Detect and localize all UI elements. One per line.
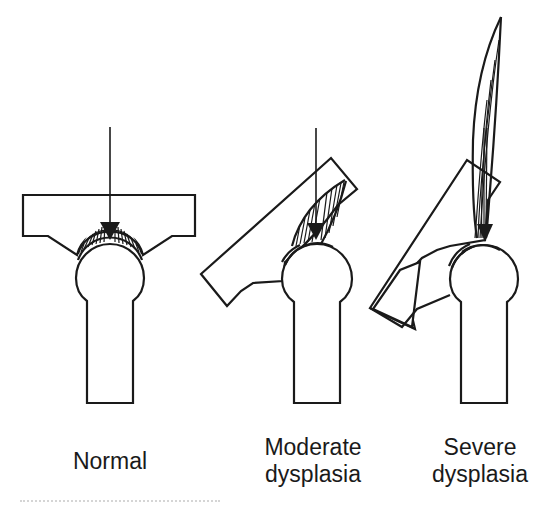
panel-moderate xyxy=(201,128,357,403)
label-moderate-dysplasia: Moderate dysplasia xyxy=(233,434,393,488)
femur-normal xyxy=(76,244,144,403)
label-severe-line-1: Severe xyxy=(400,434,541,461)
hip-dysplasia-diagram xyxy=(0,0,541,506)
label-moderate-line-2: dysplasia xyxy=(233,461,393,488)
label-normal-line-1: Normal xyxy=(30,448,190,475)
panel-severe xyxy=(370,17,518,403)
label-severe-dysplasia: Severe dysplasia xyxy=(400,434,541,488)
label-moderate-line-1: Moderate xyxy=(233,434,393,461)
femur-severe xyxy=(450,245,518,403)
label-normal: Normal xyxy=(30,448,190,475)
femur-moderate xyxy=(282,244,352,403)
truncated-caption xyxy=(20,500,220,506)
label-severe-line-2: dysplasia xyxy=(400,461,541,488)
panel-normal xyxy=(23,127,195,403)
